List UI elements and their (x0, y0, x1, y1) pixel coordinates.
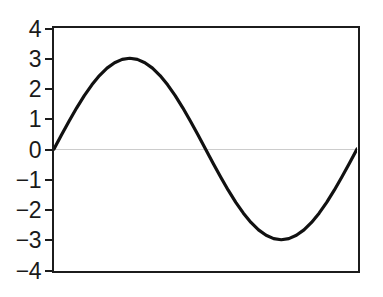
y-tick-label: 0 (0, 138, 46, 162)
y-tick-label: −2 (0, 198, 46, 222)
y-tick-label: 2 (0, 77, 46, 101)
sine-wave-chart: 43210−1−2−3−4 (0, 0, 383, 297)
y-tick-label: −3 (0, 228, 46, 252)
y-tick-label: 4 (0, 17, 46, 41)
sine-curve-path (54, 58, 357, 240)
sine-curve (54, 28, 357, 270)
y-tick-label: 3 (0, 47, 46, 71)
y-tick-label: −1 (0, 168, 46, 192)
y-tick-label: −4 (0, 259, 46, 283)
y-axis-tick-labels: 43210−1−2−3−4 (0, 0, 46, 297)
y-tick-label: 1 (0, 107, 46, 131)
plot-area (52, 26, 360, 273)
